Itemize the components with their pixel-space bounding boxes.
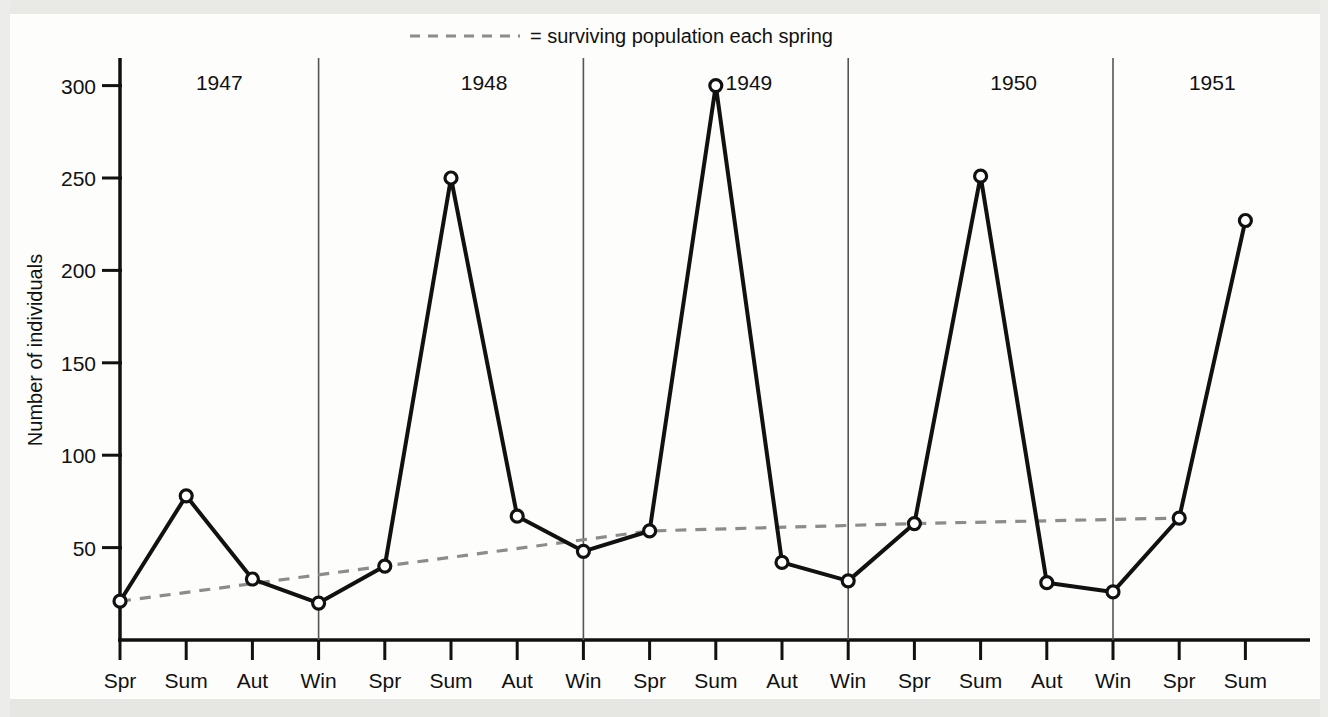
data-point-marker <box>644 525 656 537</box>
x-tick-label: Aut <box>237 669 269 692</box>
x-tick-label: Aut <box>766 669 798 692</box>
x-tick-label: Sum <box>959 669 1002 692</box>
x-axis-tick-labels: SprSumAutWinSprSumAutWinSprSumAutWinSprS… <box>104 669 1267 692</box>
x-tick-label: Spr <box>1163 669 1196 692</box>
y-axis-ticks: 50100150200250300 <box>61 75 122 560</box>
y-tick-label: 300 <box>61 75 96 98</box>
year-label: 1951 <box>1189 71 1236 94</box>
y-tick-label: 200 <box>61 259 96 282</box>
data-point-marker <box>313 597 325 609</box>
year-label: 1947 <box>196 71 243 94</box>
data-point-marker <box>180 490 192 502</box>
data-point-marker <box>975 170 987 182</box>
legend-label: = surviving population each spring <box>530 25 833 47</box>
x-tick-label: Sum <box>165 669 208 692</box>
data-point-marker <box>1041 577 1053 589</box>
x-tick-label: Spr <box>898 669 931 692</box>
y-tick-label: 50 <box>73 537 96 560</box>
population-line-chart: = surviving population each spring 50100… <box>0 0 1328 717</box>
x-tick-label: Win <box>1095 669 1131 692</box>
data-point-marker <box>511 510 523 522</box>
data-point-marker <box>908 518 920 530</box>
population-series-line <box>120 86 1245 603</box>
year-label: 1950 <box>990 71 1037 94</box>
x-tick-label: Aut <box>501 669 533 692</box>
data-point-marker <box>1239 215 1251 227</box>
year-label: 1948 <box>461 71 508 94</box>
y-axis-title: Number of individuals <box>24 254 46 446</box>
data-point-marker <box>114 595 126 607</box>
x-tick-label: Spr <box>368 669 401 692</box>
x-tick-label: Sum <box>429 669 472 692</box>
year-label: 1949 <box>726 71 773 94</box>
data-point-marker <box>445 172 457 184</box>
data-point-marker <box>1107 586 1119 598</box>
chart-svg: = surviving population each spring 50100… <box>0 0 1328 717</box>
x-tick-label: Spr <box>633 669 666 692</box>
data-point-marker <box>1173 512 1185 524</box>
data-point-marker <box>842 575 854 587</box>
y-tick-label: 100 <box>61 444 96 467</box>
chart-axes <box>118 58 1310 640</box>
data-point-marker <box>577 545 589 557</box>
data-point-marker <box>379 560 391 572</box>
x-tick-label: Spr <box>104 669 137 692</box>
year-divider-lines <box>319 58 1113 640</box>
y-tick-label: 250 <box>61 167 96 190</box>
x-tick-label: Win <box>565 669 601 692</box>
x-axis-ticks <box>120 640 1245 660</box>
data-point-marker <box>246 573 258 585</box>
chart-page: = surviving population each spring 50100… <box>0 0 1328 717</box>
x-tick-label: Win <box>301 669 337 692</box>
x-tick-label: Aut <box>1031 669 1063 692</box>
x-tick-label: Sum <box>694 669 737 692</box>
y-tick-label: 150 <box>61 352 96 375</box>
x-tick-label: Sum <box>1224 669 1267 692</box>
x-tick-label: Win <box>830 669 866 692</box>
chart-legend: = surviving population each spring <box>410 25 833 47</box>
data-point-marker <box>710 80 722 92</box>
data-point-marker <box>776 556 788 568</box>
